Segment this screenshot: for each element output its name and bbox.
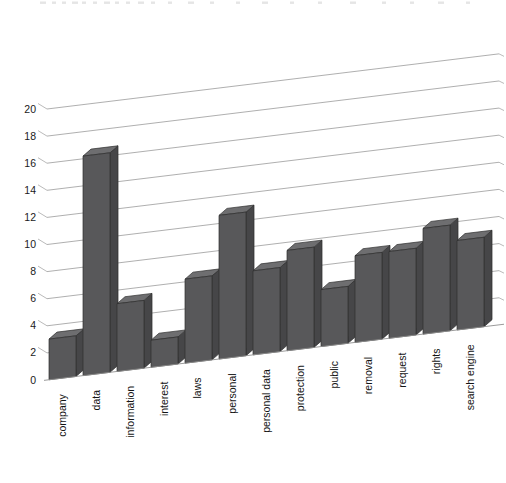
- scan-artifact: [138, 2, 144, 4]
- scan-artifact: [52, 2, 56, 4]
- bar-front-face: [457, 237, 484, 330]
- scan-artifact: [126, 2, 130, 4]
- scan-artifact: [82, 2, 86, 4]
- scan-artifact: [350, 2, 356, 4]
- bar: [321, 279, 356, 346]
- x-axis-category-label: personal: [226, 373, 238, 413]
- x-axis-category-label: request: [396, 353, 408, 388]
- bar-front-face: [253, 268, 280, 355]
- bar: [185, 269, 220, 363]
- bar: [423, 218, 458, 334]
- scan-artifact: [466, 2, 470, 4]
- scan-artifact: [318, 2, 322, 4]
- bar: [253, 261, 288, 355]
- x-axis-category-label: company: [56, 393, 68, 436]
- bar-front-face: [185, 276, 212, 363]
- x-axis-category-label: public: [328, 361, 340, 388]
- bar-front-face: [151, 337, 178, 367]
- y-axis-tick-label: 20: [24, 103, 36, 115]
- x-axis-category-label: data: [90, 390, 102, 411]
- y-axis-tick-label: 12: [24, 211, 36, 223]
- y-axis-tick-label: 10: [24, 238, 36, 250]
- bar-front-face: [287, 247, 314, 351]
- y-axis-tick-label: 8: [30, 265, 36, 277]
- bar: [49, 329, 84, 380]
- scan-artifact: [115, 2, 119, 4]
- x-axis-category-label: laws: [192, 378, 204, 399]
- y-axis-tick-label: 14: [24, 184, 36, 196]
- bar-chart-figure: 02468101214161820 companydatainformation…: [0, 0, 506, 483]
- bar: [219, 205, 254, 359]
- x-axis-category-label: search engine: [464, 344, 476, 410]
- scan-artifact: [236, 2, 240, 4]
- scan-artifact: [62, 2, 66, 4]
- scan-artifact: [104, 2, 110, 4]
- y-axis-tick-label: 4: [30, 319, 36, 331]
- scan-artifact: [151, 2, 155, 4]
- y-axis-tick-label: 6: [30, 292, 36, 304]
- y-axis-tick-label: 16: [24, 157, 36, 169]
- y-axis-tick-label: 2: [30, 346, 36, 358]
- scan-artifact: [410, 2, 414, 4]
- bar: [151, 330, 186, 367]
- x-axis-category-label: rights: [430, 348, 442, 374]
- x-axis-category-label: information: [124, 386, 136, 438]
- scan-artifact: [382, 2, 386, 4]
- bar-front-face: [321, 286, 348, 346]
- scan-artifact: [290, 2, 294, 4]
- bar: [355, 245, 390, 342]
- bar-front-face: [423, 225, 450, 334]
- x-axis-category-label: interest: [158, 382, 170, 417]
- x-axis-category-label: personal data: [260, 369, 272, 433]
- bar-front-face: [83, 153, 110, 376]
- y-axis-tick-label: 0: [30, 374, 36, 386]
- chart-canvas: 02468101214161820 companydatainformation…: [0, 0, 506, 483]
- scan-artifact: [438, 2, 444, 4]
- scan-artifact: [210, 2, 214, 4]
- bar: [287, 240, 322, 351]
- bar: [117, 293, 152, 371]
- bar-front-face: [117, 300, 144, 371]
- bar-front-face: [355, 252, 382, 342]
- bar: [457, 230, 492, 330]
- bar: [83, 146, 118, 376]
- x-axis-category-label: removal: [362, 357, 374, 394]
- scan-artifact: [40, 2, 46, 4]
- scan-artifact: [168, 2, 172, 4]
- scan-artifact: [188, 2, 194, 4]
- bar-front-face: [219, 212, 246, 359]
- y-axis-tick-label: 18: [24, 130, 36, 142]
- bar-side-face: [484, 230, 492, 326]
- bar: [389, 241, 424, 338]
- x-axis-category-label: protection: [294, 365, 306, 411]
- scan-artifact: [262, 2, 268, 4]
- scan-artifact: [72, 2, 78, 4]
- bar-front-face: [49, 336, 76, 380]
- bar-front-face: [389, 248, 416, 338]
- scan-artifact: [93, 2, 97, 4]
